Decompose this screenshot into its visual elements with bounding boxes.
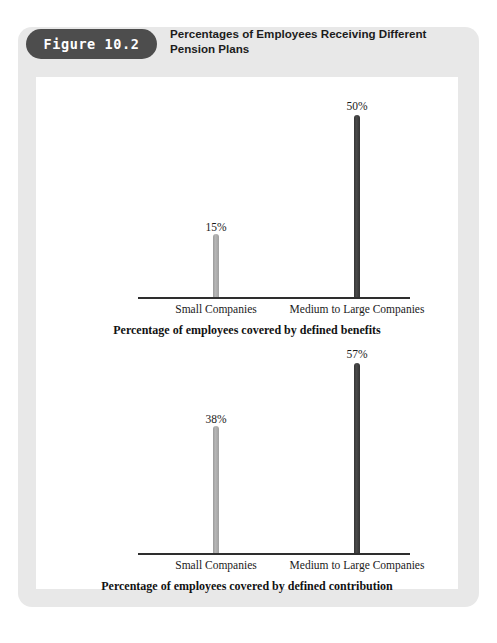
bar-value-small-companies-contribution: 38% — [205, 413, 226, 425]
figure-header: Figure 10.2 Percentages of Employees Rec… — [18, 27, 479, 65]
bar-small-companies-benefits — [213, 234, 219, 297]
bar-medium-large-companies-benefits — [354, 115, 360, 297]
category-label-medium-large-companies-benefits: Medium to Large Companies — [290, 303, 425, 315]
chart-card: 15% 50% Small Companies Medium to Large … — [36, 77, 458, 589]
plot-area-contribution: 38% 57% — [36, 345, 458, 555]
bar-value-medium-large-companies-benefits: 50% — [346, 100, 367, 112]
figure-number-badge: Figure 10.2 — [26, 29, 157, 59]
x-axis-line-contribution — [138, 553, 410, 555]
figure-number-label: Figure 10.2 — [43, 36, 139, 52]
category-label-small-companies-benefits: Small Companies — [175, 303, 256, 315]
chart-caption-benefits: Percentage of employees covered by defin… — [36, 323, 458, 338]
x-axis-line-benefits — [138, 297, 410, 299]
bar-medium-large-companies-contribution — [354, 363, 360, 553]
figure-panel: Figure 10.2 Percentages of Employees Rec… — [18, 27, 479, 607]
chart-caption-contribution: Percentage of employees covered by defin… — [36, 579, 458, 594]
category-label-small-companies-contribution: Small Companies — [175, 559, 256, 571]
category-labels-benefits: Small Companies Medium to Large Companie… — [36, 303, 458, 319]
chart-defined-benefits: 15% 50% Small Companies Medium to Large … — [36, 89, 458, 339]
bar-value-medium-large-companies-contribution: 57% — [346, 348, 367, 360]
chart-defined-contribution: 38% 57% Small Companies Medium to Large … — [36, 337, 458, 587]
bar-value-small-companies-benefits: 15% — [205, 221, 226, 233]
category-label-medium-large-companies-contribution: Medium to Large Companies — [290, 559, 425, 571]
plot-area-benefits: 15% 50% — [36, 89, 458, 299]
bar-small-companies-contribution — [213, 426, 219, 553]
figure-title: Percentages of Employees Receiving Diffe… — [170, 27, 470, 56]
category-labels-contribution: Small Companies Medium to Large Companie… — [36, 559, 458, 575]
